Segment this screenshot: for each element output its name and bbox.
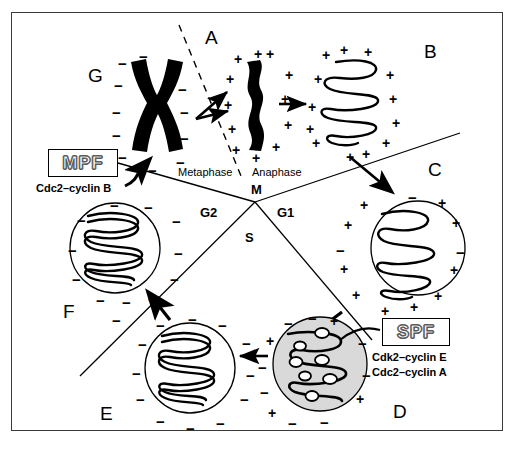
charge-plus-b-12: + [346,150,354,164]
phase-label-anaphase: Anaphase [252,167,302,178]
charge-plus-a-5: + [224,98,232,112]
charge-plus-c-1: + [360,198,368,212]
charge-plus-d-9: + [268,406,276,420]
phase-label-s: S [245,231,254,244]
charge-minus-e-10: − [186,421,195,436]
charge-plus-b-3: + [314,72,322,86]
charge-plus-b-11: + [362,147,370,161]
charge-plus-a-4: + [285,68,293,82]
charge-plus-c-10: + [434,289,442,303]
charge-plus-b-5: + [308,100,316,114]
charge-minus-g-0: − [118,56,127,71]
charge-minus-g-8: − [180,131,189,146]
charge-plus-b-8: + [392,116,400,130]
charge-minus-d-6: − [362,368,371,383]
charge-minus-f-3: − [172,214,181,229]
charge-plus-a-2: + [266,47,274,61]
charge-minus-g-1: − [139,49,148,64]
stage-letter-f: F [63,302,75,321]
charge-plus-a-3: + [226,72,234,86]
charge-minus-e-1: − [188,312,197,327]
charge-minus-d-11: − [320,415,329,430]
factor-label-mpf: MPF [63,153,104,174]
charge-minus-e-8: − [240,392,249,407]
charge-minus-d-4: − [358,336,367,351]
charge-plus-d-2: + [330,314,338,328]
charge-minus-c-0: − [408,190,417,205]
charge-minus-f-10: − [148,292,157,307]
charge-minus-g-4: − [178,82,187,97]
stage-letter-a: A [205,28,218,47]
charge-plus-a-10: + [272,140,280,154]
charge-minus-g-7: − [112,128,121,143]
charge-minus-e-11: − [216,416,225,431]
factor-subtitle-spf-line1: Cdk2–cyclin E [372,351,447,363]
charge-plus-c-9: + [352,288,360,302]
charge-plus-c-7: + [340,262,348,276]
charge-minus-f-4: − [68,243,77,258]
factor-box-spf: SPF [382,318,450,346]
charge-minus-e-0: − [156,318,165,333]
stage-letter-c: C [428,160,442,179]
charge-plus-c-3: + [344,218,352,232]
charge-plus-b-4: + [386,68,394,82]
charge-plus-b-9: + [312,136,320,150]
charge-minus-e-7: − [136,392,145,407]
charge-plus-b-7: + [306,122,314,136]
factor-subtitle-spf-line2: Cdc2–cyclin A [372,366,447,378]
charge-minus-d-5: − [258,360,267,375]
charge-plus-c-12: + [410,300,418,314]
charge-minus-d-0: − [284,316,293,331]
phase-label-m: M [251,183,262,196]
diagram-canvas: A B C D E F G Metaphase Anaphase M G2 G1… [0,0,516,449]
charge-minus-f-7: − [170,272,179,287]
charge-minus-f-6: − [72,272,81,287]
factor-box-mpf: MPF [48,149,118,177]
charge-minus-d-7: − [260,385,269,400]
stage-letter-e: E [100,404,113,423]
charge-plus-d-8: + [356,392,364,406]
phase-label-metaphase: Metaphase [178,167,232,178]
charge-minus-c-6: − [456,245,465,260]
charge-plus-a-8: + [284,118,292,132]
stage-letter-d: D [393,402,407,421]
charge-minus-e-3: − [138,337,147,352]
charge-minus-e-6: − [246,368,255,383]
phase-label-g2: G2 [200,206,217,219]
charge-plus-a-0: + [234,52,242,66]
charge-minus-d-1: − [308,311,317,326]
charge-minus-f-11: − [112,313,121,328]
charge-minus-d-10: − [288,416,297,431]
stage-letter-g: G [88,66,103,85]
charge-minus-f-8: − [96,293,105,308]
charge-minus-g-11: − [148,163,157,178]
charge-minus-e-5: − [132,366,141,381]
charge-plus-a-7: + [228,122,236,136]
charge-plus-b-0: + [322,48,330,62]
charge-plus-a-1: + [254,47,262,61]
charge-minus-e-9: − [156,414,165,429]
charge-minus-g-6: − [180,105,189,120]
charge-minus-f-1: − [144,200,153,215]
charge-minus-f-9: − [122,295,131,310]
charge-plus-a-11: + [252,151,260,165]
charge-plus-b-10: + [382,136,390,150]
charge-plus-b-6: + [389,92,397,106]
charge-minus-g-5: − [112,105,121,120]
charge-plus-b-1: + [340,43,348,57]
charge-plus-c-4: + [452,216,460,230]
charge-minus-e-2: − [218,318,227,333]
charge-plus-c-11: + [381,304,389,318]
factor-label-spf: SPF [397,322,435,343]
charge-minus-f-0: − [110,198,119,213]
charge-plus-a-6: + [281,92,289,106]
factor-subtitle-mpf: Cdc2–cyclin B [36,182,111,194]
charge-minus-f-2: − [77,213,86,228]
charge-plus-c-8: + [450,263,458,277]
charge-minus-g-10: − [176,155,185,170]
charge-plus-a-9: + [232,143,240,157]
charge-minus-g-3: − [114,78,123,93]
charge-minus-g-9: − [118,150,127,165]
charge-plus-b-2: + [364,45,372,59]
charge-minus-f-5: − [174,246,183,261]
